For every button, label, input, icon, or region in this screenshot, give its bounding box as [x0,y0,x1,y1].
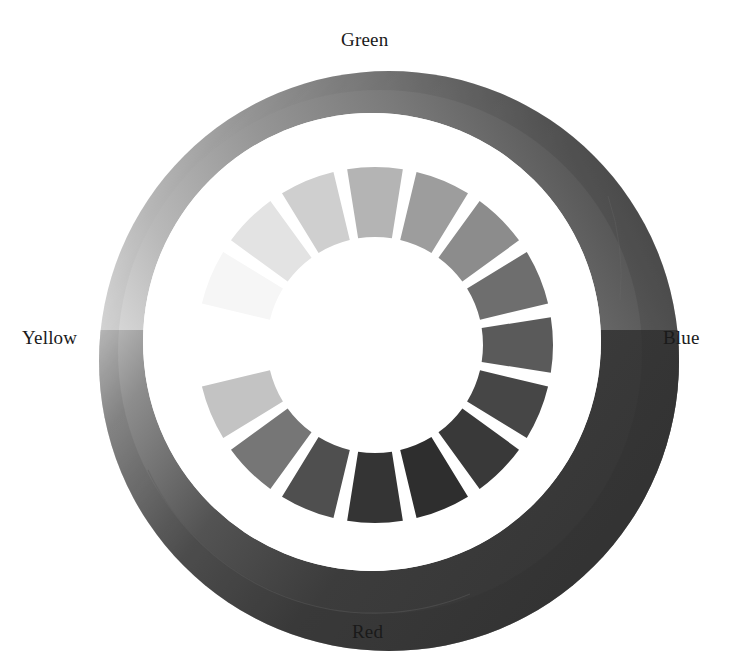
axis-label-blue: Blue [663,327,700,349]
axis-label-yellow: Yellow [22,327,77,349]
colour-wheel-svg [0,0,744,666]
colour-wheel-figure: Green Blue Red Yellow [0,0,744,666]
axis-label-green: Green [341,29,388,51]
axis-label-red: Red [352,621,383,643]
